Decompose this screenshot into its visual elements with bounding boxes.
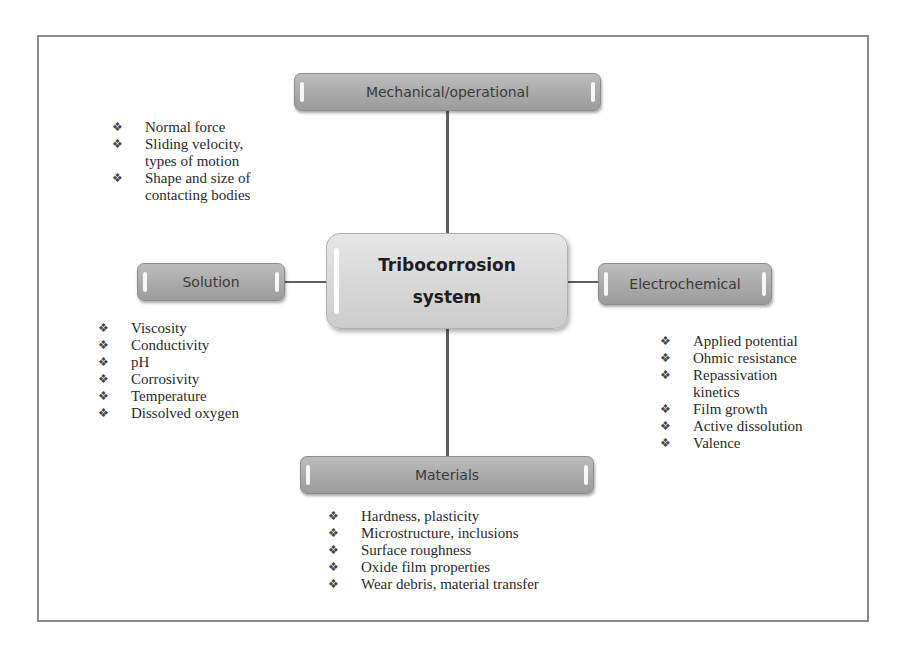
list-item: ❖Hardness, plasticity xyxy=(323,508,613,525)
center-node-tribocorrosion-system: Tribocorrosion system xyxy=(326,233,568,329)
bullet-icon: ❖ xyxy=(328,559,339,576)
bullet-icon: ❖ xyxy=(98,405,109,422)
list-item: ❖Active dissolution xyxy=(655,418,855,435)
node-electrochemical-label: Electrochemical xyxy=(629,276,740,292)
list-item: ❖Applied potential xyxy=(655,333,855,350)
bullet-icon: ❖ xyxy=(98,337,109,354)
node-solution: Solution xyxy=(137,263,285,301)
list-item: ❖Oxide film properties xyxy=(323,559,613,576)
bullet-icon: ❖ xyxy=(112,119,123,136)
list-item: ❖pH xyxy=(93,354,313,371)
connector-top xyxy=(446,111,449,233)
bullet-icon: ❖ xyxy=(98,320,109,337)
bullet-icon: ❖ xyxy=(660,418,671,435)
node-materials-label: Materials xyxy=(415,467,479,483)
connector-bottom xyxy=(446,329,449,457)
list-item: ❖Corrosivity xyxy=(93,371,313,388)
bullet-icon: ❖ xyxy=(660,401,671,418)
list-item: ❖Viscosity xyxy=(93,320,313,337)
list-item: ❖Wear debris, material transfer xyxy=(323,576,613,593)
node-mechanical-label: Mechanical/operational xyxy=(366,84,529,100)
bullet-icon: ❖ xyxy=(112,170,123,187)
bullet-icon: ❖ xyxy=(660,350,671,367)
list-item: ❖Conductivity xyxy=(93,337,313,354)
bullet-icon: ❖ xyxy=(112,136,123,153)
center-label-line2: system xyxy=(413,281,482,313)
bullet-icon: ❖ xyxy=(328,542,339,559)
materials-list: ❖Hardness, plasticity ❖Microstructure, i… xyxy=(323,508,613,593)
list-item: ❖Shape and size of contacting bodies xyxy=(107,170,255,204)
electrochemical-list: ❖Applied potential ❖Ohmic resistance ❖Re… xyxy=(655,333,855,452)
connector-right xyxy=(568,281,598,283)
bullet-icon: ❖ xyxy=(328,525,339,542)
bullet-icon: ❖ xyxy=(328,576,339,593)
center-label-line1: Tribocorrosion xyxy=(378,249,516,281)
list-item: ❖Temperature xyxy=(93,388,313,405)
node-solution-label: Solution xyxy=(182,274,239,290)
bullet-icon: ❖ xyxy=(660,333,671,350)
node-materials: Materials xyxy=(300,456,594,494)
bullet-icon: ❖ xyxy=(98,388,109,405)
solution-list: ❖Viscosity ❖Conductivity ❖pH ❖Corrosivit… xyxy=(93,320,313,422)
list-item: ❖Microstructure, inclusions xyxy=(323,525,613,542)
list-item: ❖Film growth xyxy=(655,401,855,418)
bullet-icon: ❖ xyxy=(660,435,671,452)
node-mechanical: Mechanical/operational xyxy=(294,73,601,111)
list-item: ❖Normal force xyxy=(107,119,287,136)
list-item: ❖Repassivation kinetics xyxy=(655,367,818,401)
node-electrochemical: Electrochemical xyxy=(598,263,772,305)
bullet-icon: ❖ xyxy=(98,371,109,388)
bullet-icon: ❖ xyxy=(328,508,339,525)
list-item: ❖Ohmic resistance xyxy=(655,350,855,367)
bullet-icon: ❖ xyxy=(660,367,671,384)
list-item: ❖Sliding velocity, types of motion xyxy=(107,136,255,170)
list-item: ❖Valence xyxy=(655,435,855,452)
mechanical-list: ❖Normal force ❖Sliding velocity, types o… xyxy=(107,119,287,204)
connector-left xyxy=(284,281,326,283)
bullet-icon: ❖ xyxy=(98,354,109,371)
list-item: ❖Surface roughness xyxy=(323,542,613,559)
list-item: ❖Dissolved oxygen xyxy=(93,405,313,422)
